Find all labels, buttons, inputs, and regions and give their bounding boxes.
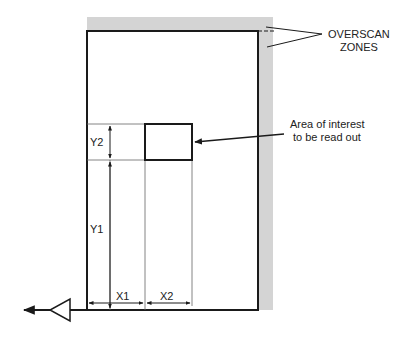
overscan-label-line1: OVERSCAN [328, 28, 390, 40]
overscan-pointer-right [267, 34, 322, 47]
y2-label: Y2 [90, 136, 103, 148]
overscan-right-band [258, 17, 273, 310]
area-of-interest-box [145, 124, 192, 160]
amplifier-triangle-icon [50, 299, 70, 321]
overscan-pointer-top [266, 27, 322, 34]
overscan-zones [87, 17, 276, 310]
ccd-readout-diagram: Y2 Y1 X1 X2 Area of interest to be read … [0, 0, 403, 342]
output-amplifier [24, 299, 87, 321]
sensor-frame [87, 31, 258, 310]
y1-label: Y1 [90, 223, 103, 235]
overscan-top-band [87, 17, 273, 31]
x2-label: X2 [160, 290, 173, 302]
aoi-label-line2: to be read out [293, 131, 361, 143]
x1-label: X1 [116, 290, 129, 302]
aoi-label-line1: Area of interest [290, 118, 365, 130]
overscan-label-line2: ZONES [340, 41, 378, 53]
